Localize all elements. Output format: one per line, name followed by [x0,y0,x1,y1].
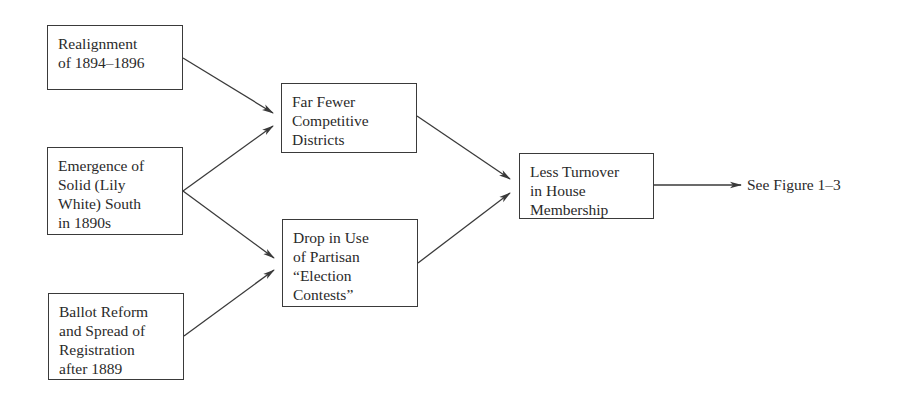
node-text-line: Solid (Lily [58,175,172,194]
node-text-line: Districts [292,130,406,149]
node-text-line: after 1889 [59,359,173,378]
arrow-drop-election-contests-to-less-turnover [418,193,510,263]
node-less-turnover: Less Turnover in House Membership [519,153,654,219]
see-figure-label: See Figure 1–3 [747,175,841,194]
node-text-line: Contests” [293,285,407,304]
node-text-line: Competitive [292,111,406,130]
node-text-line: Realignment [58,34,172,53]
arrow-fewer-competitive-to-less-turnover [417,116,510,179]
node-text-line: Far Fewer [292,92,406,111]
node-text-line: Emergence of [58,156,172,175]
causal-diagram: Realignment of 1894–1896 Emergence of So… [0,0,908,402]
node-text-line: of 1894–1896 [58,53,172,72]
node-text-line: in House [530,181,643,200]
node-text-line: Ballot Reform [59,302,173,321]
node-text-line: of Partisan [293,247,407,266]
arrow-solid-south-to-fewer-competitive [183,126,273,191]
node-text-line: “Election [293,266,407,285]
arrow-solid-south-to-drop-election-contests [183,191,274,258]
node-ballot-reform: Ballot Reform and Spread of Registration… [48,293,184,380]
arrow-ballot-reform-to-drop-election-contests [184,270,274,336]
node-text-line: Registration [59,340,173,359]
node-text-line: Less Turnover [530,162,643,181]
node-text-line: and Spread of [59,321,173,340]
arrow-realignment-to-fewer-competitive [183,58,273,113]
node-text-line: Drop in Use [293,228,407,247]
node-text-line: in 1890s [58,213,172,232]
node-realignment: Realignment of 1894–1896 [47,25,183,90]
node-text-line: Membership [530,200,643,219]
node-drop-election-contests: Drop in Use of Partisan “Election Contes… [282,219,418,307]
node-text-line: White) South [58,194,172,213]
node-fewer-competitive-districts: Far Fewer Competitive Districts [281,83,417,153]
node-solid-south: Emergence of Solid (Lily White) South in… [47,147,183,235]
